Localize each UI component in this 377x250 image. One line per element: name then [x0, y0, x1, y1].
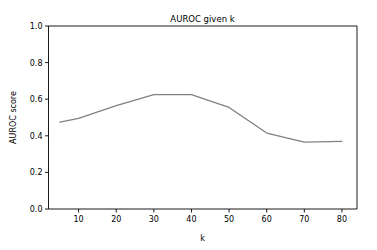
y-tick-label: 0.0 [30, 205, 43, 214]
y-tick-label: 0.6 [30, 95, 43, 104]
x-tick-label: 70 [299, 215, 309, 224]
y-tick-label: 0.2 [30, 168, 43, 177]
y-tick-label: 0.8 [30, 59, 43, 68]
x-tick-label: 20 [111, 215, 121, 224]
chart-canvas: AUROC given k 0.00.20.40.60.81.0 1020304… [0, 0, 377, 250]
y-tick-label: 0.4 [30, 132, 43, 141]
x-tick-label: 30 [149, 215, 159, 224]
y-axis-label: AUROC score [9, 91, 18, 144]
x-tick-label: 80 [337, 215, 347, 224]
x-axis-label: k [200, 234, 205, 243]
plot-area-background [49, 26, 358, 209]
chart-title: AUROC given k [170, 14, 234, 24]
x-tick-label: 10 [74, 215, 84, 224]
chart-figure: AUROC given k 0.00.20.40.60.81.0 1020304… [0, 0, 377, 250]
x-tick-label: 50 [224, 215, 234, 224]
x-tick-label: 40 [186, 215, 196, 224]
x-tick-label: 60 [262, 215, 272, 224]
y-tick-label: 1.0 [30, 22, 43, 31]
